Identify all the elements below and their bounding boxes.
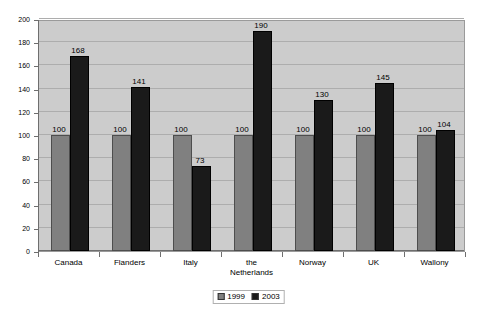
- x-axis-category-label: Italy: [160, 258, 221, 268]
- legend-item-2003: 2003: [252, 292, 280, 301]
- legend-label-1999: 1999: [227, 292, 245, 301]
- x-axis-category-label-line: UK: [343, 258, 404, 268]
- x-axis-tick: [38, 252, 39, 257]
- bar-1999-italy: [173, 135, 192, 251]
- bar-2003-canada: [70, 56, 89, 251]
- gridline: [39, 18, 464, 19]
- bar-value-label: 141: [126, 77, 153, 86]
- bar-2003-italy: [192, 166, 211, 251]
- bar-value-label: 145: [370, 73, 397, 82]
- bar-1999-flanders: [112, 135, 131, 251]
- bar-value-label: 100: [46, 125, 73, 134]
- y-axis-tick-label: 120: [2, 109, 30, 116]
- y-axis-tick: [34, 206, 38, 207]
- x-axis-category-label: Wallony: [404, 258, 465, 268]
- x-axis-tick: [99, 252, 100, 257]
- gridline: [39, 64, 464, 65]
- bar-chart: 020406080100120140160180200 CanadaFlande…: [0, 0, 497, 319]
- bar-1999-uk: [356, 135, 375, 251]
- gridline: [39, 111, 464, 112]
- plot-area: [38, 20, 465, 252]
- chart-legend: 1999 2003: [212, 290, 285, 304]
- x-axis-category-label: Canada: [38, 258, 99, 268]
- y-axis-tick-label: 200: [2, 16, 30, 23]
- bar-2003-wallony: [436, 130, 455, 251]
- y-axis-tick-label: 180: [2, 39, 30, 46]
- x-axis-category-label-line: the: [221, 258, 282, 268]
- gridline: [39, 88, 464, 89]
- y-axis-tick: [34, 20, 38, 21]
- y-axis-tick-label: 40: [2, 202, 30, 209]
- x-axis-tick: [160, 252, 161, 257]
- x-axis-category-label-line: Wallony: [404, 258, 465, 268]
- bar-2003-the-netherlands: [253, 31, 272, 251]
- bar-value-label: 100: [351, 125, 378, 134]
- legend-swatch-icon-1999: [217, 293, 224, 300]
- x-axis-category-label: theNetherlands: [221, 258, 282, 277]
- y-axis-tick-label: 80: [2, 155, 30, 162]
- x-axis-category-label-line: Netherlands: [221, 268, 282, 278]
- bar-2003-uk: [375, 83, 394, 251]
- bar-value-label: 100: [290, 125, 317, 134]
- y-axis-tick-label: 60: [2, 178, 30, 185]
- bar-1999-the-netherlands: [234, 135, 253, 251]
- bar-value-label: 190: [248, 21, 275, 30]
- y-axis-tick-label: 160: [2, 62, 30, 69]
- y-axis-tick: [34, 136, 38, 137]
- bar-1999-norway: [295, 135, 314, 251]
- x-axis-tick: [221, 252, 222, 257]
- legend-item-1999: 1999: [217, 292, 245, 301]
- x-axis-category-label-line: Flanders: [99, 258, 160, 268]
- bar-value-label: 100: [168, 125, 195, 134]
- bar-2003-flanders: [131, 87, 150, 251]
- x-axis-tick: [465, 252, 466, 257]
- bar-1999-wallony: [417, 135, 436, 251]
- y-axis-line: [38, 20, 39, 253]
- y-axis-tick: [34, 113, 38, 114]
- bar-value-label: 100: [229, 125, 256, 134]
- y-axis-tick: [34, 182, 38, 183]
- bar-value-label: 100: [107, 125, 134, 134]
- y-axis-tick-label: 20: [2, 225, 30, 232]
- y-axis-tick: [34, 90, 38, 91]
- y-axis-tick: [34, 43, 38, 44]
- bar-value-label: 130: [309, 90, 336, 99]
- y-axis-tick: [34, 229, 38, 230]
- y-axis-tick: [34, 159, 38, 160]
- x-axis-category-label: Flanders: [99, 258, 160, 268]
- y-axis-tick-label: 0: [2, 248, 30, 255]
- x-axis-category-label-line: Italy: [160, 258, 221, 268]
- x-axis-category-label-line: Canada: [38, 258, 99, 268]
- bar-value-label: 168: [65, 46, 92, 55]
- bar-value-label: 73: [187, 156, 214, 165]
- x-axis-tick: [343, 252, 344, 257]
- x-axis-category-label: UK: [343, 258, 404, 268]
- y-axis-tick: [34, 66, 38, 67]
- bar-1999-canada: [51, 135, 70, 251]
- y-axis-tick-label: 140: [2, 86, 30, 93]
- x-axis-tick: [404, 252, 405, 257]
- x-axis-category-label: Norway: [282, 258, 343, 268]
- y-axis-tick-label: 100: [2, 132, 30, 139]
- gridline: [39, 41, 464, 42]
- x-axis-tick: [282, 252, 283, 257]
- x-axis-category-label-line: Norway: [282, 258, 343, 268]
- legend-label-2003: 2003: [262, 292, 280, 301]
- bar-value-label: 104: [431, 120, 458, 129]
- legend-swatch-icon-2003: [252, 293, 259, 300]
- bar-2003-norway: [314, 100, 333, 251]
